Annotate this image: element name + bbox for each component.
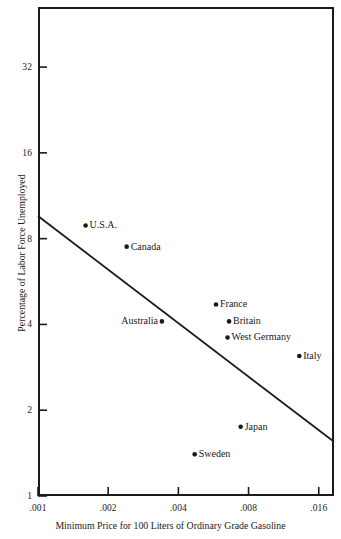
data-point-label: Britain bbox=[233, 315, 261, 326]
x-tick-label: .016 bbox=[297, 503, 341, 513]
x-tick-label: .008 bbox=[227, 503, 271, 513]
scatter-plot-figure: 12481632 .001.002.004.008.016 U.S.A.Cana… bbox=[0, 0, 341, 539]
data-point-label: Italy bbox=[303, 350, 321, 361]
data-point-label: France bbox=[220, 298, 247, 309]
x-tick-label: .002 bbox=[86, 503, 130, 513]
x-axis-title: Minimum Price for 100 Liters of Ordinary… bbox=[0, 520, 341, 532]
y-tick-label: 32 bbox=[6, 62, 32, 72]
y-axis-title: Percentage of Labor Force Unemployed bbox=[16, 113, 28, 393]
data-point-label: Australia bbox=[121, 315, 158, 326]
data-point-label: Canada bbox=[131, 241, 161, 252]
plot-area-frame bbox=[38, 7, 334, 496]
y-tick-label: 2 bbox=[6, 405, 32, 415]
data-point-label: Japan bbox=[245, 421, 268, 432]
data-point-label: Sweden bbox=[199, 448, 231, 459]
x-tick-label: .001 bbox=[16, 503, 60, 513]
x-tick-label: .004 bbox=[156, 503, 200, 513]
data-point-label: West Germany bbox=[232, 331, 291, 342]
data-point-label: U.S.A. bbox=[90, 219, 118, 230]
y-tick-label: 1 bbox=[6, 491, 32, 501]
